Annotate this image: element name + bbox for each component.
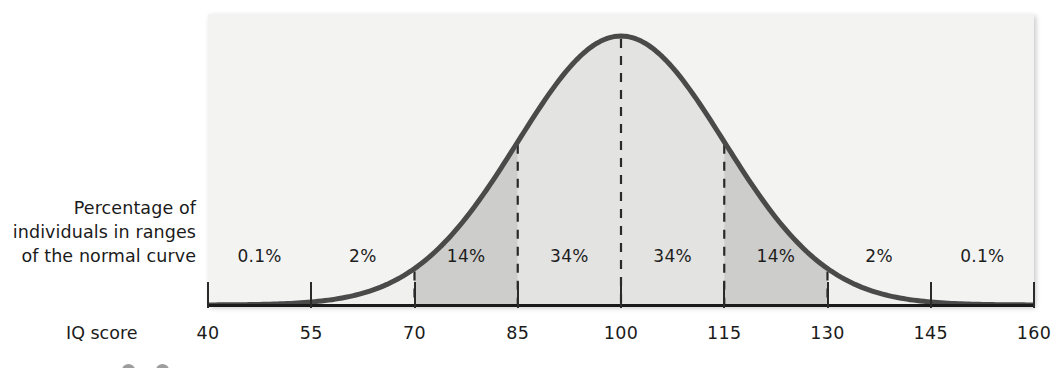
normal-curve-plot (208, 14, 1034, 306)
x-axis-tick-label: 130 (810, 323, 844, 343)
x-axis-tick-mark (310, 282, 312, 308)
band-percentage-label: 34% (653, 246, 692, 266)
band-percentage-label: 2% (865, 246, 893, 266)
plot-panel (208, 14, 1034, 306)
cut-off-caption-glyphs (36, 360, 196, 368)
x-axis-tick-label: 145 (914, 323, 948, 343)
iq-normal-curve-figure: Percentage of individuals in ranges of t… (0, 0, 1055, 368)
y-axis-caption: Percentage of individuals in ranges of t… (0, 196, 196, 268)
x-axis-tick-label: 55 (300, 323, 323, 343)
band-percentage-label: 14% (447, 246, 486, 266)
x-axis-tick-label: 100 (604, 323, 638, 343)
x-axis-tick-mark (723, 282, 725, 308)
x-axis-tick-label: 40 (197, 323, 220, 343)
x-axis-tick-mark (827, 282, 829, 308)
band-percentage-label: 2% (349, 246, 377, 266)
x-axis-tick-mark (620, 282, 622, 308)
x-axis-tick-mark (207, 282, 209, 308)
band-percentage-label: 0.1% (237, 246, 281, 266)
x-axis-tick-mark (1033, 282, 1035, 308)
y-axis-caption-line-3: of the normal curve (0, 244, 196, 268)
x-axis-tick-label: 85 (506, 323, 529, 343)
x-axis-tick-mark (930, 282, 932, 308)
y-axis-caption-line-2: individuals in ranges (0, 220, 196, 244)
band-percentage-label: 0.1% (960, 246, 1004, 266)
band-percentage-label: 34% (550, 246, 589, 266)
band-percentage-label: 14% (757, 246, 796, 266)
y-axis-caption-line-1: Percentage of (0, 196, 196, 220)
x-axis-tick-label: 115 (707, 323, 741, 343)
x-axis-tick-mark (517, 282, 519, 308)
x-axis-title: IQ score (66, 323, 138, 343)
x-axis-tick-label: 160 (1017, 323, 1051, 343)
x-axis-tick-mark (414, 282, 416, 308)
x-axis-tick-label: 70 (403, 323, 426, 343)
